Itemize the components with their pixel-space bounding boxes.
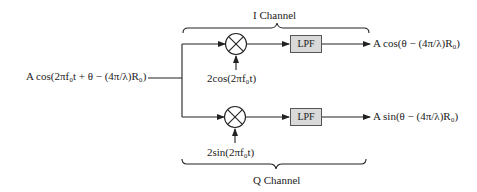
q-output-label: A sin(θ − (4π/λ)R₀)	[373, 110, 458, 122]
i-lpf-block: LPF	[290, 35, 322, 53]
i-output-label: A cos(θ − (4π/λ)R₀)	[373, 37, 460, 49]
i-channel-label: I Channel	[253, 9, 296, 21]
i-channel-brace	[183, 23, 369, 33]
q-oscillator-label: 2sin(2πf₀t)	[207, 146, 254, 158]
q-lpf-block: LPF	[290, 108, 322, 126]
diagram-canvas	[0, 0, 477, 192]
q-channel-label: Q Channel	[253, 174, 300, 186]
i-oscillator-label: 2cos(2πf₀t)	[207, 72, 256, 84]
input-signal-label: A cos(2πf₀t + θ − (4π/λ)R₀)	[26, 70, 146, 82]
q-channel-brace	[182, 159, 366, 169]
